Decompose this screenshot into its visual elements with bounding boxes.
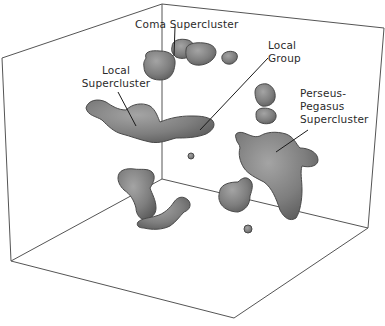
blob-coma-right — [186, 43, 216, 65]
box-edge-floor-front-left — [11, 261, 234, 318]
blob-floor-cluster — [219, 178, 252, 212]
box-edge-top-left — [2, 4, 162, 58]
box-edge-front-left — [2, 58, 11, 261]
blob-local-supercluster — [86, 100, 214, 143]
label-local-supercluster: Local Supercluster — [77, 64, 155, 90]
label-coma-line-1: Coma Supercluster — [135, 18, 238, 31]
blob-small-dot-center — [188, 153, 194, 159]
box-edge-front-right — [368, 28, 384, 228]
label-perseus-pegasus-line-2: Pegasus — [300, 100, 369, 113]
blob-small-dot-low — [244, 225, 252, 233]
label-perseus-pegasus-line-3: Supercluster — [300, 113, 369, 126]
label-perseus-pegasus-line-1: Perseus- — [300, 87, 369, 100]
box-edge-floor-front-right — [234, 228, 368, 318]
label-perseus-pegasus-supercluster: Perseus- Pegasus Supercluster — [300, 87, 369, 126]
blob-lower-left — [118, 169, 156, 220]
blob-coma-small — [222, 51, 238, 64]
supercluster-diagram: Coma Supercluster Local Supercluster Loc… — [0, 0, 385, 326]
label-local-group-line-1: Local — [268, 39, 301, 52]
blob-upper-pair-top — [255, 84, 275, 106]
box-edge-floor-back-right — [162, 179, 368, 228]
label-local-group-line-2: Group — [268, 52, 301, 65]
label-coma-supercluster: Coma Supercluster — [135, 18, 238, 31]
diagram-canvas — [0, 0, 385, 326]
label-local-supercluster-line-1: Local — [77, 64, 155, 77]
label-local-supercluster-line-2: Supercluster — [77, 77, 155, 90]
blob-upper-pair-bottom — [256, 108, 276, 124]
label-local-group: Local Group — [268, 39, 301, 65]
